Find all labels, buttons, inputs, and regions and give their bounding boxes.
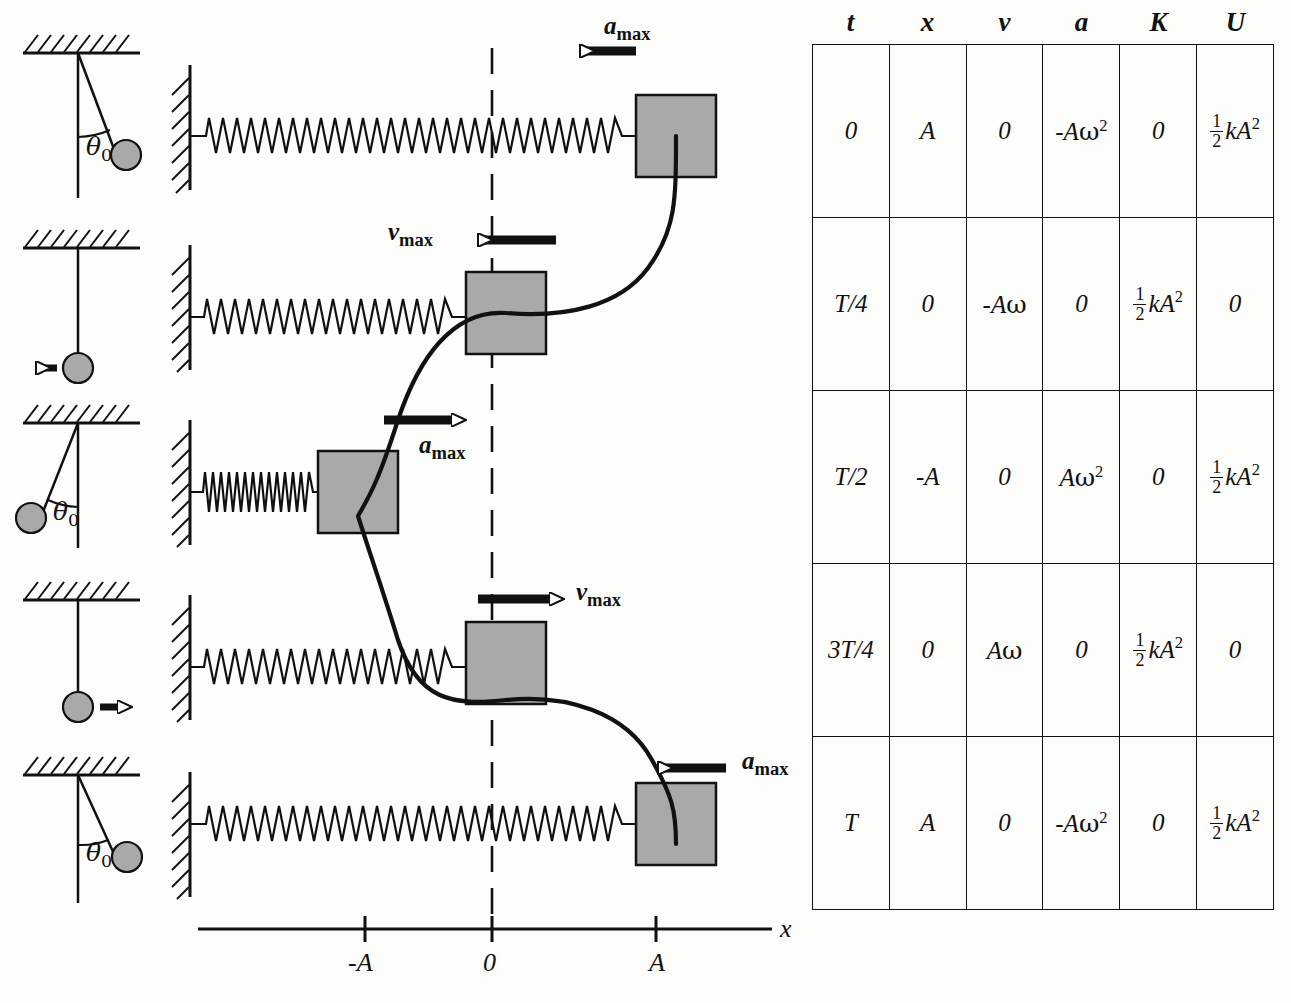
pendulum-1	[23, 35, 141, 198]
table-row: T/40-Aω012kA20	[813, 218, 1274, 391]
table-cell-u-row1: 12kA2	[1197, 45, 1274, 218]
label-theta-0-pendulum-1: θ0	[86, 132, 112, 165]
wall-1	[172, 65, 190, 193]
ceiling-1	[23, 35, 140, 53]
x-axis-ticklabel-zero: 0	[483, 948, 496, 978]
block-4	[466, 622, 546, 704]
table-header-k: K	[1120, 2, 1197, 42]
shm-data-table: 0A0-Aω2012kA2T/40-Aω012kA20T/2-A0Aω2012k…	[812, 44, 1274, 910]
table-cell-a-row4: 0	[1043, 564, 1120, 737]
table-cell-k-row3: 0	[1120, 391, 1197, 564]
table-cell-v-row4: Aω	[966, 564, 1043, 737]
table-header-a: a	[1043, 2, 1120, 42]
spring-3	[191, 472, 324, 512]
pendulum-4	[23, 582, 140, 722]
table-header-row: t x v a K U	[812, 2, 1274, 42]
table-row: 0A0-Aω2012kA2	[813, 45, 1274, 218]
table-row: T/2-A0Aω2012kA2	[813, 391, 1274, 564]
table-cell-a-row2: 0	[1043, 218, 1120, 391]
table-cell-u-row5: 12kA2	[1197, 737, 1274, 910]
table-header-x: x	[889, 2, 966, 42]
label-theta-0-pendulum-5: θ0	[86, 838, 112, 871]
label-a-max-3: amax	[419, 431, 465, 464]
ceiling-5	[23, 757, 140, 775]
table-cell-v-row5: 0	[966, 737, 1043, 910]
label-theta-0-pendulum-3: θ0	[53, 497, 79, 530]
table-cell-k-row1: 0	[1120, 45, 1197, 218]
label-v-max-4: vmax	[576, 578, 621, 611]
spring-4	[191, 649, 466, 684]
spring-5	[191, 806, 636, 841]
table-cell-a-row1: -Aω2	[1043, 45, 1120, 218]
table-body: 0A0-Aω2012kA2T/40-Aω012kA20T/2-A0Aω2012k…	[813, 45, 1274, 910]
ceiling-4	[23, 582, 140, 600]
x-axis-ticklabel-pos-a: A	[649, 948, 665, 978]
table-header-v: v	[966, 2, 1043, 42]
figure-canvas: amax vmax amax vmax amax θ0 θ0 θ0 x -A 0…	[0, 0, 1291, 1003]
pendulum-4-bob	[63, 692, 93, 722]
label-a-max-5: amax	[742, 747, 788, 780]
pendulum-5-bob	[112, 842, 142, 872]
pendulum-1-bob	[111, 140, 141, 170]
table-cell-u-row3: 12kA2	[1197, 391, 1274, 564]
table-cell-x-row2: 0	[889, 218, 966, 391]
wall-3	[172, 420, 190, 547]
table-cell-x-row4: 0	[889, 564, 966, 737]
table-cell-a-row3: Aω2	[1043, 391, 1120, 564]
wall-5	[172, 772, 190, 899]
table-cell-u-row2: 0	[1197, 218, 1274, 391]
table-cell-v-row1: 0	[966, 45, 1043, 218]
wall-2	[172, 245, 190, 372]
table-cell-t-row3: T/2	[813, 391, 890, 564]
pendulum-2-bob	[63, 353, 93, 383]
spring-2	[191, 299, 466, 334]
table-cell-t-row1: 0	[813, 45, 890, 218]
table-cell-a-row5: -Aω2	[1043, 737, 1120, 910]
table-element: 0A0-Aω2012kA2T/40-Aω012kA20T/2-A0Aω2012k…	[812, 44, 1274, 910]
table-header-t: t	[812, 2, 889, 42]
table-cell-x-row5: A	[889, 737, 966, 910]
wall-4	[172, 595, 190, 722]
spring-1	[191, 118, 636, 153]
ceiling-2	[23, 230, 140, 248]
table-cell-x-row3: -A	[889, 391, 966, 564]
ceiling-3	[23, 405, 140, 423]
pendulum-5	[23, 757, 142, 903]
x-axis-ticklabel-neg-a: -A	[348, 948, 373, 978]
table-cell-u-row4: 0	[1197, 564, 1274, 737]
pendulum-3-bob	[16, 503, 46, 533]
x-axis-label: x	[780, 914, 792, 944]
label-a-max-1: amax	[604, 12, 650, 45]
table-cell-k-row4: 12kA2	[1120, 564, 1197, 737]
table-cell-k-row2: 12kA2	[1120, 218, 1197, 391]
table-cell-t-row5: T	[813, 737, 890, 910]
table-cell-t-row4: 3T/4	[813, 564, 890, 737]
table-cell-x-row1: A	[889, 45, 966, 218]
table-header-u: U	[1197, 2, 1274, 42]
table-cell-k-row5: 0	[1120, 737, 1197, 910]
table-cell-v-row3: 0	[966, 391, 1043, 564]
table-cell-v-row2: -Aω	[966, 218, 1043, 391]
table-cell-t-row2: T/4	[813, 218, 890, 391]
x-axis	[198, 916, 772, 942]
label-v-max-2: vmax	[388, 218, 433, 251]
table-row: 3T/40Aω012kA20	[813, 564, 1274, 737]
pendulum-2	[23, 230, 140, 383]
table-row: TA0-Aω2012kA2	[813, 737, 1274, 910]
